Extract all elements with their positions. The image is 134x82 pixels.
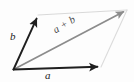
parallelogram-right-edge xyxy=(101,10,127,67)
vector-diagram-canvas xyxy=(0,0,134,82)
vector-b-arrow xyxy=(14,19,37,70)
vector-b-shaft xyxy=(14,19,37,70)
vector-a-arrow xyxy=(14,67,98,70)
vector-parallelogram-figure: b a a + b xyxy=(0,0,134,82)
vector-a-label: a xyxy=(45,70,51,81)
vector-b-label: b xyxy=(10,31,16,42)
parallelogram-outline xyxy=(38,10,127,67)
parallelogram-top-edge xyxy=(38,10,127,15)
vector-a-shaft xyxy=(14,67,98,70)
